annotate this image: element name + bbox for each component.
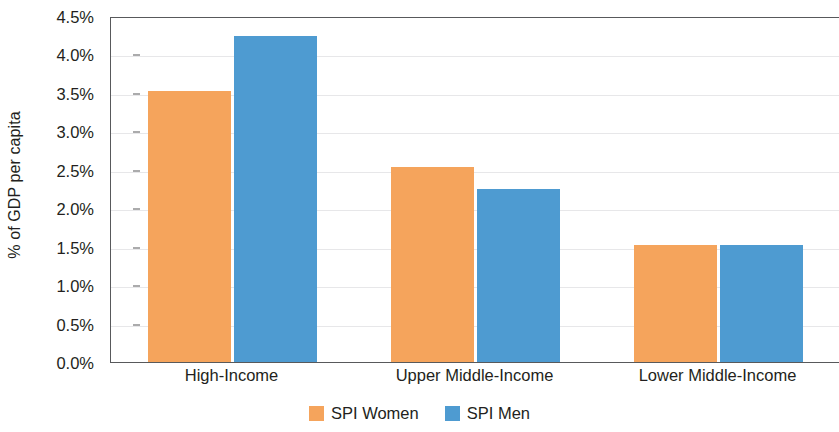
chart-legend: SPI WomenSPI Men: [0, 400, 839, 426]
bar: [234, 36, 317, 362]
y-axis-tick-label: 3.5%: [56, 84, 94, 103]
x-axis-tick-label: Lower Middle-Income: [639, 366, 797, 385]
legend-swatch-icon: [309, 406, 324, 421]
legend-label: SPI Men: [467, 404, 530, 423]
y-axis-title-text: % of GDP per capita: [6, 111, 24, 258]
y-axis-tick-label: 1.5%: [56, 238, 94, 257]
x-axis-tick-label: Upper Middle-Income: [396, 366, 554, 385]
legend-item[interactable]: SPI Women: [309, 404, 419, 423]
x-axis-tick-labels: High-IncomeUpper Middle-IncomeLower Midd…: [110, 366, 839, 394]
y-axis-tick-label: 2.5%: [56, 161, 94, 180]
legend-swatch-icon: [445, 406, 460, 421]
x-axis-tick-label: High-Income: [185, 366, 279, 385]
y-axis-tick-label: 4.5%: [56, 8, 94, 27]
y-axis-tick-label: 4.0%: [56, 46, 94, 65]
y-axis-tick-label: 3.0%: [56, 123, 94, 142]
bars-layer: [111, 18, 839, 362]
bar: [720, 245, 803, 362]
bar-chart: % of GDP per capita 0.0%0.5%1.0%1.5%2.0%…: [0, 0, 839, 432]
bar: [477, 189, 560, 362]
y-axis-tick-label: 0.5%: [56, 315, 94, 334]
y-axis-tick-label: 1.0%: [56, 277, 94, 296]
bar: [148, 91, 231, 362]
y-axis-tick-label: 0.0%: [56, 354, 94, 373]
bar: [634, 245, 717, 362]
legend-item[interactable]: SPI Men: [445, 404, 530, 423]
y-axis-title: % of GDP per capita: [0, 0, 30, 370]
bar: [391, 167, 474, 362]
y-axis-tick-label: 2.0%: [56, 200, 94, 219]
legend-label: SPI Women: [331, 404, 419, 423]
plot-area: [110, 17, 839, 363]
y-axis-tick-labels: 0.0%0.5%1.0%1.5%2.0%2.5%3.0%3.5%4.0%4.5%: [30, 17, 102, 363]
